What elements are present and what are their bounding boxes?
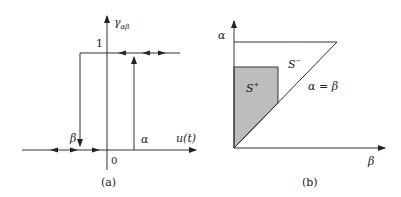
alpha-label: α — [141, 133, 149, 146]
beta-axis-label: β — [367, 155, 374, 168]
caption-a: (a) — [101, 176, 116, 189]
origin-label: 0 — [111, 155, 117, 166]
beta-label: β — [69, 132, 76, 145]
hysteresis-diagram: γαβ 1 β α u(t) 0 (a) α β S− S+ α = β (b) — [0, 0, 401, 197]
arrow-right-icon — [70, 148, 78, 153]
arrow-left-icon — [50, 148, 58, 153]
arrow-left-icon — [118, 51, 126, 56]
diagonal-label: α = β — [308, 80, 338, 93]
level-one-label: 1 — [96, 37, 103, 50]
s-minus-label: S− — [288, 57, 302, 71]
x-axis-label: u(t) — [176, 132, 196, 145]
arrow-right-icon — [92, 148, 100, 153]
panel-a-labels: γαβ 1 β α u(t) 0 (a) — [69, 16, 196, 189]
y-axis-label: γαβ — [114, 16, 129, 31]
panel-a — [22, 16, 196, 170]
region-s-plus — [234, 67, 278, 148]
caption-b: (b) — [302, 176, 318, 189]
alpha-axis-label: α — [218, 29, 226, 42]
arrow-right-icon — [158, 51, 166, 56]
arrow-left-icon — [142, 51, 150, 56]
